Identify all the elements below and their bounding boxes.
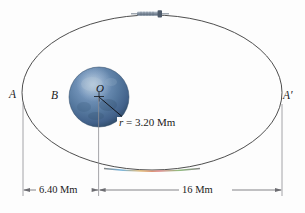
dimension-extension-lines — [23, 97, 282, 196]
orbit-ellipse — [22, 15, 282, 170]
label-dimension-left: 6.40 Mm — [37, 185, 80, 196]
label-radius: r = 3.20 Mm — [117, 117, 177, 128]
label-dimension-right: 16 Mm — [180, 185, 215, 196]
label-planet-b: B — [51, 90, 58, 102]
spacecraft-icon — [131, 10, 169, 17]
label-center-o: O — [96, 83, 104, 94]
diagram-canvas — [0, 0, 305, 213]
label-apogee-a-prime: A′ — [283, 90, 293, 102]
orbit-diagram: A A′ B O r = 3.20 Mm 6.40 Mm 16 Mm — [0, 0, 305, 213]
label-apogee-a: A — [9, 89, 16, 101]
